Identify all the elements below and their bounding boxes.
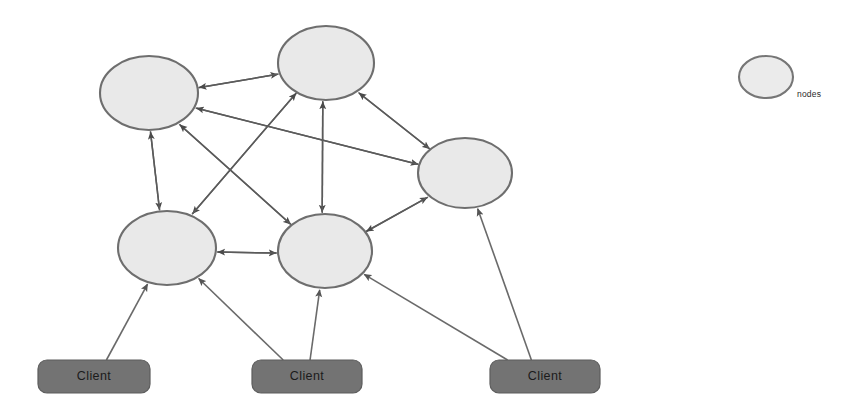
client-edge-client-2-to-n-bottom-left [199,279,284,360]
edge-n-bottom-left-to-n-top-left [151,132,160,210]
node-shape [118,211,216,285]
client-edge-client-3-to-n-bottom-center [364,274,507,360]
edge-n-bottom-center-to-n-top-center [322,102,323,213]
client-label: Client [528,369,562,383]
node-shape [278,214,372,288]
client-box-client-1[interactable]: Client [38,360,150,393]
edge-n-top-center-to-n-top-left [199,74,278,87]
node-link-diagram: ClientClientClient nodes [0,0,856,412]
node-shape [418,138,512,208]
node-n-top-left[interactable] [100,56,198,130]
edge-n-right-to-n-top-left [197,108,419,164]
node-n-right[interactable] [418,138,512,208]
node-n-top-center[interactable] [278,26,374,100]
edge-n-right-to-n-top-center [359,93,430,149]
node-n-bottom-center[interactable] [278,214,372,288]
nodes-layer [100,26,512,288]
legend: nodes [739,56,821,99]
legend-layer: nodes [739,56,821,99]
node-shape [278,26,374,100]
client-edge-client-1-to-n-bottom-left [106,284,147,360]
client-label: Client [77,369,111,383]
edge-n-bottom-center-to-n-bottom-left [218,252,277,253]
diagram-canvas: ClientClientClient nodes [0,0,856,412]
client-box-client-2[interactable]: Client [252,360,362,393]
clients-layer: ClientClientClient [38,360,600,393]
edge-n-right-to-n-bottom-center [367,197,428,231]
legend-label: nodes [797,89,821,99]
node-n-bottom-left[interactable] [118,211,216,285]
legend-node-swatch [739,56,793,98]
client-edge-client-2-to-n-bottom-center [310,290,320,360]
client-box-client-3[interactable]: Client [490,360,600,393]
client-edge-client-3-to-n-right [478,209,532,360]
node-shape [100,56,198,130]
client-label: Client [290,369,324,383]
